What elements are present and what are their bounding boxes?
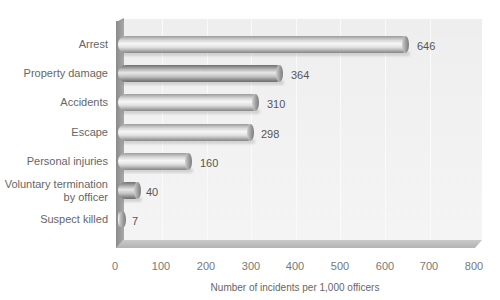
bar-arrest xyxy=(118,36,406,53)
x-axis-title: Number of incidents per 1,000 officers xyxy=(0,282,500,293)
x-tick: 500 xyxy=(331,260,349,272)
value-label: 40 xyxy=(146,186,158,199)
x-tick: 200 xyxy=(197,260,215,272)
x-tick: 300 xyxy=(242,260,260,272)
bar-cap xyxy=(252,94,259,111)
bar-suspect-killed xyxy=(118,211,123,228)
bar-shadow xyxy=(122,51,410,56)
x-tick: 100 xyxy=(152,260,170,272)
bar-cap xyxy=(276,65,283,82)
value-label: 298 xyxy=(261,128,279,141)
bar-personal-injuries xyxy=(118,153,189,170)
x-axis-floor xyxy=(116,240,482,248)
category-label: Property damage xyxy=(24,67,108,80)
x-tick: 800 xyxy=(465,260,483,272)
bar-property-damage xyxy=(118,65,280,82)
value-label: 310 xyxy=(267,98,285,111)
category-label: Accidents xyxy=(60,96,108,109)
category-label: Suspect killed xyxy=(40,213,108,226)
value-label: 7 xyxy=(132,215,138,228)
category-label: Escape xyxy=(71,126,108,139)
value-label: 160 xyxy=(200,157,218,170)
category-label: Personal injuries xyxy=(27,155,108,168)
x-tick: 0 xyxy=(112,260,118,272)
bar-shadow xyxy=(122,168,193,173)
category-label: Arrest xyxy=(79,38,108,51)
bar-chart: Arrest Property damage Accidents Escape … xyxy=(0,0,500,300)
bar-shadow xyxy=(122,80,284,85)
bar-escape xyxy=(118,124,251,141)
category-label: Voluntary termination xyxy=(5,178,108,191)
bar-cap xyxy=(119,211,126,228)
value-label: 646 xyxy=(417,40,435,53)
category-label: by officer xyxy=(64,191,108,204)
bar-cap xyxy=(185,153,192,170)
bar-voluntary-termination xyxy=(118,182,138,199)
bar-shadow xyxy=(122,139,255,144)
bar-cap xyxy=(247,124,254,141)
bar-shadow xyxy=(122,109,260,114)
x-tick: 700 xyxy=(420,260,438,272)
bar-accidents xyxy=(118,94,256,111)
x-tick: 400 xyxy=(286,260,304,272)
bar-cap xyxy=(402,36,409,53)
value-label: 364 xyxy=(291,69,309,82)
x-tick: 600 xyxy=(376,260,394,272)
bar-cap xyxy=(134,182,141,199)
